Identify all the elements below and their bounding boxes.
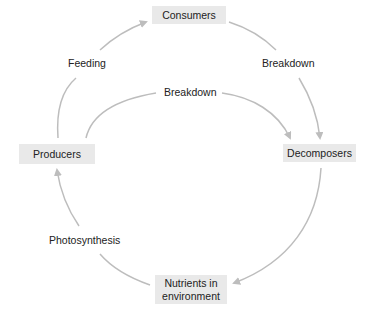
- arrow-decomposition: [234, 168, 321, 283]
- node-decomposers: Decomposers: [283, 144, 356, 162]
- nutrients-line-1: Nutrients in: [164, 277, 217, 290]
- arrow-breakdown-right-upper: [229, 22, 276, 50]
- nutrients-line-2: environment: [162, 290, 220, 303]
- label-photosynthesis: Photosynthesis: [49, 234, 120, 246]
- arrow-breakdown-inner-left: [86, 93, 156, 138]
- arrow-breakdown-inner-right: [222, 93, 290, 138]
- arrow-breakdown-right-lower: [299, 78, 320, 138]
- node-consumers: Consumers: [152, 6, 226, 24]
- node-nutrients: Nutrients in environment: [155, 275, 227, 304]
- arrow-feeding-upper: [100, 22, 146, 50]
- node-producers: Producers: [19, 144, 95, 164]
- arrow-photosynthesis-lower: [100, 254, 150, 285]
- label-breakdown-consumers: Breakdown: [262, 57, 315, 69]
- arrow-photosynthesis-upper: [57, 170, 79, 226]
- arrow-feeding-lower: [58, 78, 76, 138]
- label-breakdown-producers: Breakdown: [164, 86, 217, 98]
- label-feeding: Feeding: [68, 57, 106, 69]
